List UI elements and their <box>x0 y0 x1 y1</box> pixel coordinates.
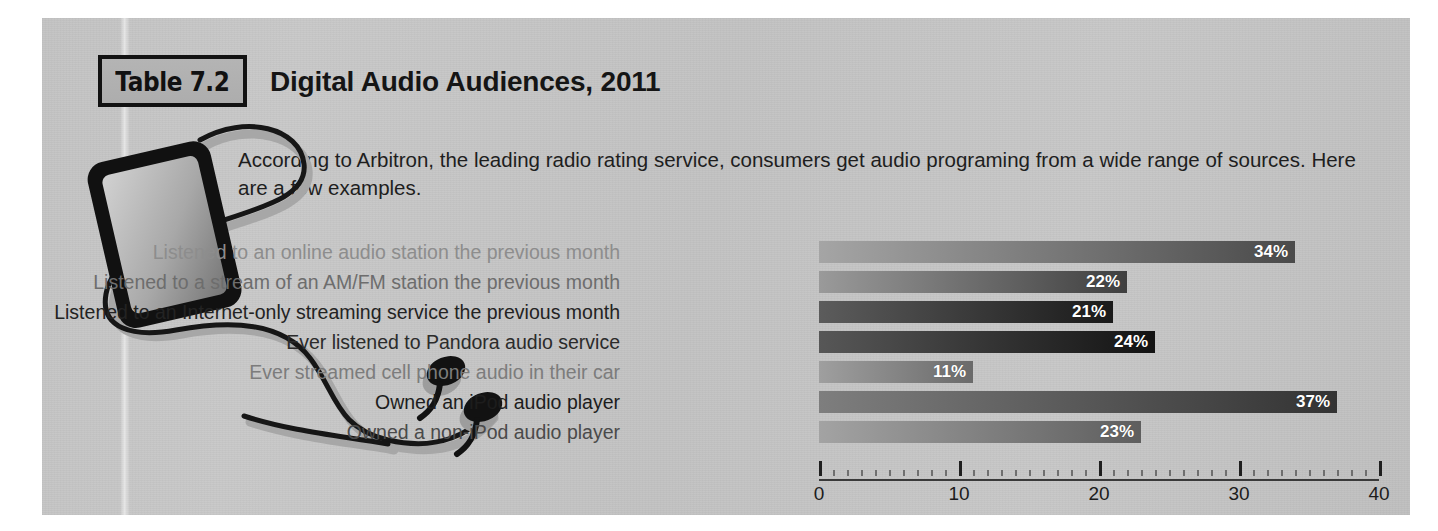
bar-row: Ever listened to Pandora audio service24… <box>42 330 1410 360</box>
axis-minor-tick <box>973 470 975 476</box>
bar-category-label: Listened to an Internet-only streaming s… <box>54 300 620 324</box>
figure-panel: Table 7.2 Digital Audio Audiences, 2011 … <box>42 18 1410 515</box>
bar-value-label: 22% <box>819 271 1127 293</box>
axis-major-tick <box>819 461 822 476</box>
bar-track: 23% <box>819 421 1379 443</box>
axis-major-tick <box>959 461 962 476</box>
axis-minor-tick <box>889 470 891 476</box>
table-number-badge: Table 7.2 <box>98 55 247 107</box>
axis-tick-label: 30 <box>1228 483 1249 505</box>
bar-value-label: 37% <box>819 391 1337 413</box>
axis-minor-tick <box>1281 470 1283 476</box>
axis-minor-tick <box>1029 470 1031 476</box>
axis-minor-tick <box>1323 470 1325 476</box>
bar-value-label: 24% <box>819 331 1155 353</box>
axis-tick-label: 20 <box>1088 483 1109 505</box>
chart-x-axis: 010203040 <box>819 461 1379 517</box>
axis-minor-tick <box>945 470 947 476</box>
axis-minor-tick <box>1253 470 1255 476</box>
bar-category-label: Listened to a stream of an AM/FM station… <box>93 270 620 294</box>
axis-minor-tick <box>833 470 835 476</box>
bar-track: 11% <box>819 361 1379 383</box>
bar-track: 37% <box>819 391 1379 413</box>
bar-category-label: Owned an iPod audio player <box>375 390 620 414</box>
axis-minor-tick <box>903 470 905 476</box>
axis-minor-tick <box>1197 470 1199 476</box>
bar-value-label: 23% <box>819 421 1141 443</box>
axis-tick-label: 40 <box>1368 483 1389 505</box>
axis-minor-tick <box>1001 470 1003 476</box>
intro-paragraph: According to Arbitron, the leading radio… <box>238 146 1358 202</box>
axis-minor-tick <box>1127 470 1129 476</box>
axis-minor-tick <box>917 470 919 476</box>
axis-major-tick <box>1099 461 1102 476</box>
bar-category-label: Ever listened to Pandora audio service <box>286 330 620 354</box>
bar-track: 22% <box>819 271 1379 293</box>
axis-minor-tick <box>1169 470 1171 476</box>
bar-category-label: Listened to an online audio station the … <box>153 240 620 264</box>
bar-value-label: 11% <box>819 361 973 383</box>
axis-minor-tick <box>847 470 849 476</box>
bar-value-label: 21% <box>819 301 1113 323</box>
bar-row: Ever streamed cell phone audio in their … <box>42 360 1410 390</box>
axis-tick-label: 10 <box>948 483 969 505</box>
axis-minor-tick <box>1351 470 1353 476</box>
axis-minor-tick <box>1141 470 1143 476</box>
axis-minor-tick <box>1071 470 1073 476</box>
axis-line <box>819 479 1379 481</box>
axis-minor-tick <box>1155 470 1157 476</box>
axis-minor-tick <box>861 470 863 476</box>
axis-minor-tick <box>1309 470 1311 476</box>
bar-value-label: 34% <box>819 241 1295 263</box>
table-number-label: Table 7.2 <box>115 66 229 97</box>
axis-minor-tick <box>1267 470 1269 476</box>
axis-minor-tick <box>1057 470 1059 476</box>
axis-minor-tick <box>1211 470 1213 476</box>
page-title: Digital Audio Audiences, 2011 <box>270 66 660 98</box>
axis-minor-tick <box>1183 470 1185 476</box>
axis-major-tick <box>1379 461 1382 476</box>
bar-row: Owned an iPod audio player37% <box>42 390 1410 420</box>
axis-minor-tick <box>875 470 877 476</box>
axis-minor-tick <box>1225 470 1227 476</box>
bar-category-label: Owned a non-iPod audio player <box>347 420 620 444</box>
bar-track: 34% <box>819 241 1379 263</box>
axis-minor-tick <box>1043 470 1045 476</box>
axis-minor-tick <box>1085 470 1087 476</box>
bar-row: Listened to a stream of an AM/FM station… <box>42 270 1410 300</box>
bar-row: Listened to an Internet-only streaming s… <box>42 300 1410 330</box>
axis-minor-tick <box>1337 470 1339 476</box>
axis-tick-marks <box>819 461 1379 476</box>
axis-minor-tick <box>1015 470 1017 476</box>
bar-track: 24% <box>819 331 1379 353</box>
bar-track: 21% <box>819 301 1379 323</box>
axis-minor-tick <box>987 470 989 476</box>
axis-minor-tick <box>1365 470 1367 476</box>
bar-row: Listened to an online audio station the … <box>42 240 1410 270</box>
axis-tick-label: 0 <box>814 483 825 505</box>
axis-minor-tick <box>1295 470 1297 476</box>
bar-row: Owned a non-iPod audio player23% <box>42 420 1410 450</box>
axis-minor-tick <box>1113 470 1115 476</box>
bar-category-label: Ever streamed cell phone audio in their … <box>249 360 620 384</box>
axis-major-tick <box>1239 461 1242 476</box>
axis-minor-tick <box>931 470 933 476</box>
